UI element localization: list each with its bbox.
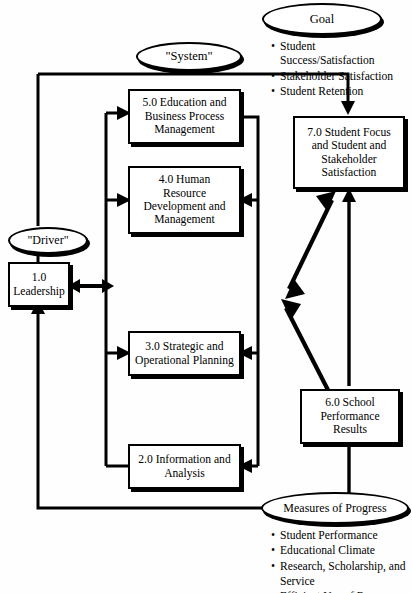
diagonal-link-upper [285, 191, 336, 299]
box-2-information-analysis[interactable]: 2.0 Information and Analysis [128, 444, 241, 489]
driver-label: "Driver" [27, 233, 68, 248]
box-4-line-4: Management [154, 213, 215, 226]
box-5-line-3: Management [154, 123, 215, 136]
box-4-line-1: 4.0 Human [159, 173, 211, 186]
box-5-education-business-process-management[interactable]: 5.0 Education and Business Process Manag… [128, 89, 241, 144]
results-to-focus-arrow [342, 188, 356, 386]
box-6-school-performance-results[interactable]: 6.0 School Performance Results [300, 389, 400, 444]
box-7-student-focus-stakeholder-satisfaction[interactable]: 7.0 Student Focus and Student and Stakeh… [293, 116, 405, 189]
list-item-continuation: Service [271, 575, 412, 589]
box-7-line-3: Stakeholder [321, 153, 376, 166]
driver-ellipse: "Driver" [8, 227, 88, 254]
box-2-line-1: 2.0 Information and [138, 453, 230, 466]
box-1-line-1: 1.0 [32, 271, 47, 284]
list-item: Research, Scholarship, and [271, 560, 412, 574]
box-5-line-1: 5.0 Education and [142, 96, 226, 109]
measures-bullet-list: Student Performance Educational Climate … [271, 529, 412, 593]
diagonal-link-lower [281, 299, 329, 392]
box-3-line-2: Operational Planning [135, 354, 234, 367]
system-ellipse: "System" [136, 42, 242, 71]
list-item: Stakeholder Satisfaction [271, 70, 411, 84]
box-3-line-1: 3.0 Strategic and [145, 340, 223, 353]
inner-right-rail [238, 117, 258, 473]
goal-label: Goal [310, 12, 334, 27]
box-1-line-2: Leadership [13, 285, 65, 298]
box-4-human-resource-development-management[interactable]: 4.0 Human Resource Development and Manag… [128, 166, 241, 234]
list-item: Student Retention [271, 85, 411, 99]
goal-ellipse: Goal [262, 3, 382, 35]
box-5-line-2: Business Process [145, 110, 225, 123]
list-item: Student Performance [271, 529, 412, 543]
diagram-canvas: Goal Student Success/Satisfaction Stakeh… [0, 0, 412, 593]
box-7-line-1: 7.0 Student Focus [307, 126, 390, 139]
box-7-line-4: Satisfaction [322, 166, 377, 179]
system-label: "System" [165, 49, 212, 64]
box-4-line-3: Development and [143, 200, 225, 213]
box-6-line-2: Performance [320, 410, 379, 423]
measures-of-progress-ellipse: Measures of Progress [261, 492, 409, 524]
list-item: Student Success/Satisfaction [271, 40, 411, 69]
box-6-line-1: 6.0 School [325, 396, 375, 409]
box-7-line-2: and Student and [312, 139, 387, 152]
box-6-line-3: Results [333, 423, 367, 436]
box-2-line-2: Analysis [164, 467, 205, 480]
box-4-line-2: Resource [163, 187, 206, 200]
list-item: Educational Climate [271, 544, 412, 558]
measures-label: Measures of Progress [283, 501, 386, 516]
box-1-leadership[interactable]: 1.0 Leadership [8, 262, 70, 307]
box-3-strategic-operational-planning[interactable]: 3.0 Strategic and Operational Planning [128, 331, 241, 376]
goal-bullet-list: Student Success/Satisfaction Stakeholder… [271, 40, 411, 101]
